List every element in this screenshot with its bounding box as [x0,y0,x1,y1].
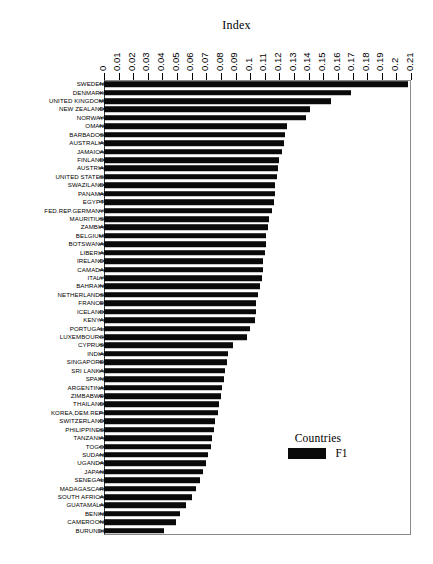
bar[interactable] [104,90,351,96]
bar[interactable] [104,359,227,365]
bar-row[interactable]: SENEGAL [0,476,433,484]
bar[interactable] [104,452,208,458]
bar-row[interactable]: AUSTRALIA [0,139,433,147]
bar-row[interactable]: FRANCE [0,299,433,307]
bar-row[interactable]: ZIMBABWE [0,392,433,400]
bar[interactable] [104,393,221,399]
bar-row[interactable]: ITALY [0,274,433,282]
bar[interactable] [104,444,211,450]
bar-row[interactable]: NORWAY [0,114,433,122]
bar-row[interactable]: MAURITIUS [0,215,433,223]
bar-row[interactable]: LIBERIA [0,249,433,257]
bar-row[interactable]: JAMAICA [0,147,433,155]
bar-row[interactable]: SINGAPORE [0,358,433,366]
bar-row[interactable]: PORTUGAL [0,324,433,332]
bar-row[interactable]: FINLAND [0,156,433,164]
bar[interactable] [104,258,263,264]
bar-row[interactable]: DENMARK [0,88,433,96]
bar[interactable] [104,225,268,231]
bar-row[interactable]: CAMEROON [0,518,433,526]
bar-row[interactable]: SRI LANKA [0,366,433,374]
bar[interactable] [104,284,260,290]
bar[interactable] [104,81,408,87]
bar-row[interactable]: NETHERLANDS [0,291,433,299]
bar[interactable] [104,242,266,248]
bar-row[interactable]: ZAMBIA [0,223,433,231]
bar-row[interactable]: SWITZERLAND [0,417,433,425]
bar[interactable] [104,520,176,526]
bar-row[interactable]: SWEDEN [0,80,433,88]
bar[interactable] [104,300,256,306]
bar-row[interactable]: BURUNDI [0,527,433,535]
bar[interactable] [104,166,278,172]
bar-row[interactable]: BARBADOS [0,131,433,139]
bar[interactable] [104,149,282,155]
bar-row[interactable]: CYPRUS [0,341,433,349]
bar[interactable] [104,183,275,189]
bar[interactable] [104,174,277,180]
bar[interactable] [104,157,279,163]
bar-row[interactable]: BELGIUM [0,232,433,240]
bar-row[interactable]: SWAZILAND [0,181,433,189]
bar[interactable] [104,494,192,500]
bar[interactable] [104,427,214,433]
bar[interactable] [104,402,219,408]
bar-row[interactable]: INDIA [0,350,433,358]
bar[interactable] [104,511,180,517]
bar-row[interactable]: SOUTH AFRICA [0,493,433,501]
bar[interactable] [104,199,274,205]
bar[interactable] [104,292,258,298]
bar[interactable] [104,267,263,273]
bar[interactable] [104,469,203,475]
bar[interactable] [104,208,272,214]
bar[interactable] [104,216,269,222]
bar-row[interactable]: KOREA,DEM.REP. [0,409,433,417]
bar-row[interactable]: BOTSWANA [0,240,433,248]
bar[interactable] [104,503,186,509]
bar[interactable] [104,418,215,424]
bar-row[interactable]: BAHRAIN [0,282,433,290]
bar[interactable] [104,486,196,492]
bar[interactable] [104,334,247,340]
bar[interactable] [104,107,310,113]
bar[interactable] [104,233,266,239]
bar[interactable] [104,326,250,332]
bar-row[interactable]: UNITED KINGDOM [0,97,433,105]
bar-row[interactable]: KENYA [0,316,433,324]
bar-row[interactable]: SPAIN [0,375,433,383]
bar-row[interactable]: IRELAND [0,257,433,265]
bar[interactable] [104,124,287,130]
bar-row[interactable]: GUATAMALA [0,501,433,509]
bar[interactable] [104,309,256,315]
bar-row[interactable]: LUXEMBOURG [0,333,433,341]
bar[interactable] [104,343,233,349]
bar[interactable] [104,376,224,382]
bar[interactable] [104,410,218,416]
bar-row[interactable]: NEW ZEALAND [0,105,433,113]
bar[interactable] [104,477,200,483]
bar[interactable] [104,250,265,256]
bar[interactable] [104,191,275,197]
bar-row[interactable]: OMAN [0,122,433,130]
bar[interactable] [104,528,164,534]
bar[interactable] [104,98,331,104]
bar[interactable] [104,351,228,357]
bar[interactable] [104,317,255,323]
bar[interactable] [104,140,284,146]
bar-row[interactable]: BENIN [0,510,433,518]
bar-row[interactable]: JAPAN [0,468,433,476]
bar-row[interactable]: THAILAND [0,400,433,408]
bar[interactable] [104,461,206,467]
bar-row[interactable]: ICELAND [0,308,433,316]
bar-row[interactable]: UGANDA [0,459,433,467]
bar-row[interactable]: PANAMA [0,190,433,198]
bar[interactable] [104,132,285,138]
bar[interactable] [104,368,225,374]
bar[interactable] [104,435,212,441]
bar-row[interactable]: MADAGASCAR [0,484,433,492]
bar[interactable] [104,385,222,391]
bar[interactable] [104,115,306,121]
bar-row[interactable]: UNITED STATES [0,173,433,181]
bar-row[interactable]: ARGENTINA [0,383,433,391]
bar-row[interactable]: CAMADA [0,265,433,273]
